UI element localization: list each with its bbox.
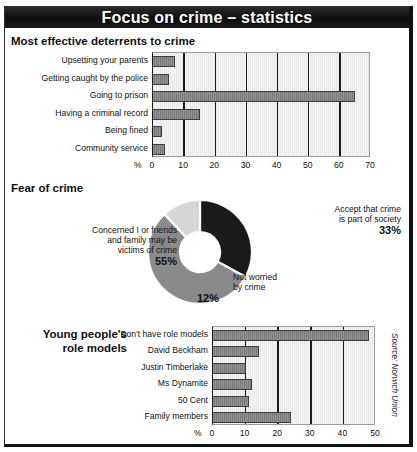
category-label: Having a criminal record — [55, 109, 148, 118]
axis-tick-20: 20 — [200, 160, 228, 170]
donut-hole — [180, 232, 220, 272]
bar — [153, 126, 162, 137]
pie-label-line: victims of crime — [92, 245, 177, 255]
gridline-10 — [183, 53, 185, 156]
pie-value-label: 55% — [92, 255, 177, 268]
pie-label-line: by crime — [233, 282, 277, 292]
page-title: Focus on crime – statistics — [102, 9, 313, 27]
pie-label-line: Not worried — [233, 272, 277, 282]
category-label: Ms Dynamite — [158, 379, 208, 388]
role-models-heading-line2: role models — [62, 342, 127, 354]
axis-tick-20: 20 — [263, 428, 291, 438]
pie-label-concerned-victim: Concerned I or friendsand family may bev… — [92, 225, 177, 268]
category-label: Don't have role models — [120, 330, 208, 339]
pie-label-not-worried: Not worriedby crime12% — [233, 272, 277, 305]
role-models-heading-line1: Young people's — [43, 328, 127, 340]
section-heading-role-models: Young people's role models — [12, 327, 127, 356]
category-label: Justin Timberlake — [141, 363, 208, 372]
gridline-60 — [339, 53, 341, 156]
axis-tick-0: 0 — [198, 428, 226, 438]
bar — [153, 144, 165, 155]
category-label: Being fined — [105, 126, 148, 135]
pie-label-line: is part of society — [335, 214, 401, 224]
bar — [153, 91, 355, 102]
axis-tick-70: 70 — [356, 160, 384, 170]
axis-tick-30: 30 — [296, 428, 324, 438]
gridline-40 — [277, 53, 279, 156]
gridline-20 — [277, 327, 279, 424]
axis-tick-40: 40 — [263, 160, 291, 170]
gridline-20 — [215, 53, 217, 156]
pie-value-label: 12% — [197, 292, 277, 305]
gridline-10 — [245, 327, 247, 424]
section-heading-deterrents: Most effective deterrents to crime — [11, 35, 195, 47]
gridline-40 — [343, 327, 345, 424]
axis-tick-60: 60 — [325, 160, 353, 170]
infographic-page: ∙∙ ∙ Focus on crime – statistics Most ef… — [0, 0, 417, 452]
axis-tick-50: 50 — [361, 428, 389, 438]
axis-tick-50: 50 — [294, 160, 322, 170]
gridline-30 — [246, 53, 248, 156]
pie-value-label: 33% — [335, 224, 401, 237]
chart-role-models-plot-area — [212, 326, 375, 425]
category-label: Upsetting your parents — [62, 56, 148, 65]
bar — [213, 330, 369, 341]
pie-label-line: and family may be — [92, 235, 177, 245]
pie-label-line: Concerned I or friends — [92, 225, 177, 235]
category-label: Family members — [144, 412, 208, 421]
bar — [153, 56, 175, 67]
axis-tick-40: 40 — [328, 428, 356, 438]
bar — [213, 396, 249, 407]
pie-label-line: Accept that crime — [335, 204, 401, 214]
bar — [213, 379, 252, 390]
bar — [213, 412, 291, 423]
bar — [213, 346, 259, 357]
gridline-30 — [310, 327, 312, 424]
bar — [153, 109, 200, 120]
pie-label-accept-crime: Accept that crimeis part of society33% — [335, 204, 401, 237]
category-label: Going to prison — [90, 91, 148, 100]
top-bleed-label: ∙∙ ∙ — [0, 0, 8, 5]
axis-percent-symbol: % — [134, 160, 142, 170]
axis-tick-30: 30 — [231, 160, 259, 170]
chart-deterrents-plot-area — [152, 52, 370, 157]
gridline-50 — [308, 53, 310, 156]
axis-tick-0: 0 — [138, 160, 166, 170]
category-label: Community service — [75, 144, 148, 153]
axis-tick-10: 10 — [169, 160, 197, 170]
title-bar: Focus on crime – statistics — [5, 7, 409, 28]
section-heading-fear: Fear of crime — [11, 182, 83, 194]
axis-tick-10: 10 — [231, 428, 259, 438]
category-label: Getting caught by the police — [41, 74, 148, 83]
category-label: David Beckham — [148, 346, 208, 355]
source-credit: Source: Norwich Union — [390, 333, 399, 417]
axis-percent-symbol: % — [194, 428, 202, 438]
bar — [213, 363, 246, 374]
bar — [153, 74, 169, 85]
category-label: 50 Cent — [178, 396, 208, 405]
